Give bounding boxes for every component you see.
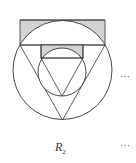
region-label: R2 [55,140,66,156]
continuation-dots-bottom: ··· [120,140,130,151]
inner-circle [38,48,86,96]
continuation-dots-top: ··· [120,71,130,82]
region-label-subscript: 2 [62,148,66,156]
geometry-diagram [0,0,136,163]
